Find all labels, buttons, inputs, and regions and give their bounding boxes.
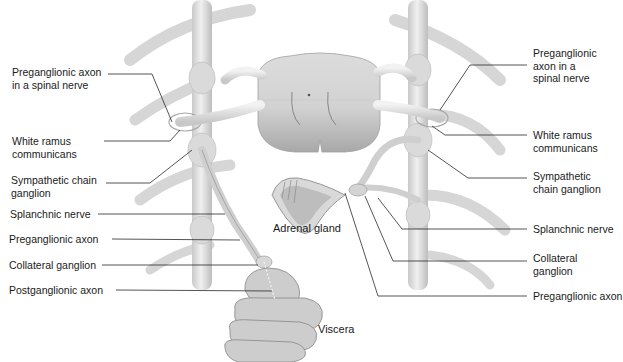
label-sympathetic-chain-ganglion-left: Sympathetic chain ganglion: [11, 174, 97, 199]
label-splanchnic-nerve-left: Splanchnic nerve: [10, 208, 91, 221]
diagram-stage: Preganglionic axon in a spinal nerve Whi…: [0, 0, 623, 362]
label-white-ramus-communicans-left: White ramus communicans: [12, 135, 77, 160]
label-collateral-ganglion-left: Collateral ganglion: [9, 259, 96, 272]
label-white-ramus-communicans-right: White ramus communicans: [533, 129, 598, 154]
label-viscera: Viscera: [318, 323, 354, 336]
label-preganglionic-axon-right: Preganglionic axon: [533, 290, 622, 303]
label-adrenal-gland: Adrenal gland: [273, 222, 341, 235]
viscera-shape: [225, 268, 323, 362]
label-collateral-ganglion-right: Collateral ganglion: [533, 252, 577, 277]
label-preganglionic-axon-spinal-nerve-right: Preganglionic axon in a spinal nerve: [533, 47, 597, 85]
label-sympathetic-chain-ganglion-right: Sympathetic chain ganglion: [533, 170, 601, 195]
label-postganglionic-axon-left: Postganglionic axon: [9, 284, 103, 297]
label-preganglionic-axon-spinal-nerve-left: Preganglionic axon in a spinal nerve: [12, 66, 101, 91]
label-splanchnic-nerve-right: Splanchnic nerve: [533, 223, 614, 236]
label-preganglionic-axon-left: Preganglionic axon: [9, 233, 98, 246]
spinal-cord: [258, 53, 380, 152]
